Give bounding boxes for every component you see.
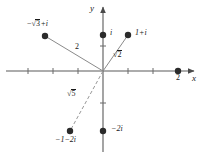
sqrt-glyph: √2 [113,50,122,59]
point-label-2: 2 [176,74,180,82]
point-label-minus-1-minus-2i: −1−2i [55,136,76,144]
segment-modulus-2 [45,36,103,71]
segment-modulus-sqrt5 [70,71,103,131]
point-label-minus-2i: −2i [111,125,123,133]
radicand: 3 [35,19,40,28]
label-rest: +i [40,19,48,28]
point-label-minus-sqrt3-plus-i: −√3+i [27,19,48,28]
point-minus-sqrt3-plus-i [42,33,48,39]
radicand: 5 [71,89,76,98]
point-label-i: i [110,29,112,37]
point-i [100,32,106,38]
segment-label-modulus-sqrt5: √5 [67,89,76,98]
point-minus-1-minus-2i [67,128,73,134]
point-label-1-plus-i: 1+i [135,29,147,37]
x-axis-label: x [192,74,196,83]
radicand: 2 [117,50,122,59]
segment-label-modulus-2: 2 [75,43,79,51]
sqrt-glyph: √3 [32,19,41,28]
point-1-plus-i [125,32,131,38]
segment-label-modulus-sqrt2: √2 [113,50,122,59]
point-minus-2i [100,128,106,134]
sqrt-glyph: √5 [67,89,76,98]
complex-plane-figure: y x −√3+i i 1+i 2 −2i −1−2i 2 √2 √5 [0,0,205,157]
y-axis-label: y [90,4,94,13]
